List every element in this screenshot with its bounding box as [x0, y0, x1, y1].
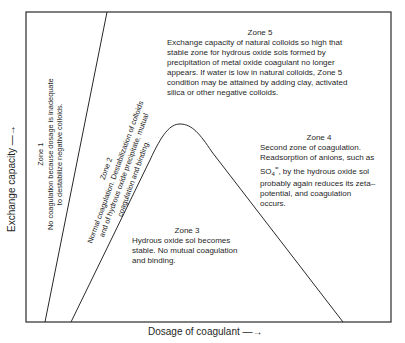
zone4-title: Zone 4: [260, 133, 378, 143]
zone5-text: Exchange capacity of natural colloids so…: [167, 38, 347, 97]
zone5-title: Zone 5: [167, 28, 353, 38]
zone3-label: Zone 3 Hydrous oxide sol becomes stable.…: [132, 226, 242, 266]
zone4-text-after: , by the hydrous oxide sol probably agai…: [260, 167, 375, 209]
y-axis-label: Exchange capacity —→: [6, 125, 17, 232]
x-axis-label: Dosage of coagulant —→: [148, 326, 263, 337]
zone5-label: Zone 5 Exchange capacity of natural coll…: [167, 28, 353, 98]
zone3-text: Hydrous oxide sol becomes stable. No mut…: [132, 236, 237, 265]
zone1-line-1: No coagulation because dosage is inadequ…: [46, 78, 56, 230]
zone1-title: Zone 1: [36, 78, 46, 230]
zone1-line-2: to destabilize negative colloids.: [55, 78, 65, 230]
zone4-label: Zone 4 Second zone of coagulation. Reads…: [260, 133, 378, 209]
zone1-label: Zone 1 No coagulation because dosage is …: [36, 78, 65, 230]
zone4-subscript: 4: [272, 171, 275, 177]
zone3-title: Zone 3: [132, 226, 242, 236]
